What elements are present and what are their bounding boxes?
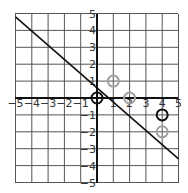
x-tick-label: −4 — [24, 97, 40, 110]
y-tick-label: 4 — [89, 24, 96, 37]
x-tick-label: 4 — [159, 97, 166, 110]
y-tick-label: −2 — [80, 126, 96, 139]
y-tick-label: 3 — [89, 41, 96, 54]
y-tick-label: −1 — [80, 109, 96, 122]
x-tick-label: −5 — [7, 97, 23, 110]
y-tick-label: −5 — [80, 177, 96, 190]
x-tick-label: −3 — [40, 97, 56, 110]
y-tick-label: −3 — [80, 143, 96, 156]
x-tick-label: 5 — [175, 97, 182, 110]
y-tick-label: 5 — [89, 8, 96, 21]
y-tick-label: 2 — [89, 58, 96, 71]
y-tick-label: −4 — [80, 160, 96, 173]
coordinate-plane-chart: −5−4−3−2−11234554321−1−2−3−4−5 — [0, 0, 188, 193]
x-tick-label: 3 — [142, 97, 149, 110]
x-tick-label: −2 — [56, 97, 72, 110]
